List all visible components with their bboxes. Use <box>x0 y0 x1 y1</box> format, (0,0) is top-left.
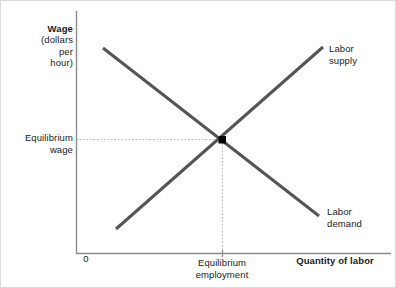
equilibrium-employment-label: Equilibrium employment <box>167 257 277 280</box>
labor-market-diagram: Wage (dollars per hour) Equilibrium wage… <box>0 0 396 288</box>
labor-demand-curve <box>103 48 319 216</box>
origin-label: 0 <box>79 253 93 265</box>
y-axis-title-units: (dollars per hour) <box>11 34 73 69</box>
labor-demand-label: Labor demand <box>327 206 391 229</box>
y-axis-title-main: Wage <box>48 23 73 34</box>
labor-supply-label: Labor supply <box>329 43 391 66</box>
equilibrium-wage-label: Equilibrium wage <box>3 132 73 155</box>
equilibrium-point-marker <box>219 136 227 144</box>
x-axis-title: Quantity of labor <box>283 255 387 267</box>
y-axis-title: Wage (dollars per hour) <box>11 11 73 80</box>
